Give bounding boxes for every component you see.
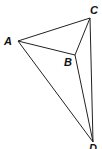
edge-b-c (75, 18, 90, 55)
geometry-diagram: A B C D (0, 0, 102, 149)
edge-c-d (90, 18, 93, 142)
edge-b-d (75, 55, 93, 142)
edge-a-d (18, 41, 93, 142)
vertex-label-c: C (90, 4, 99, 16)
vertex-label-b: B (64, 56, 72, 68)
edge-a-c (18, 18, 90, 41)
vertex-label-a: A (3, 35, 12, 47)
vertex-label-d: D (89, 142, 97, 149)
